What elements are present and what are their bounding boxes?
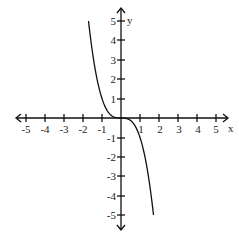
x-tick-label: -2 <box>78 123 87 135</box>
x-tick-label: 3 <box>176 123 182 135</box>
x-axis-label: x <box>228 122 234 134</box>
x-tick-label: -5 <box>21 123 31 135</box>
y-tick-label: 4 <box>111 34 117 46</box>
y-axis <box>117 8 125 230</box>
y-tick-label: 3 <box>111 54 117 66</box>
x-tick-labels: -5 -4 -3 -2 -1 1 2 3 4 5 <box>21 123 219 135</box>
x-tick-label: -4 <box>40 123 50 135</box>
y-tick-label: -4 <box>107 190 117 202</box>
y-tick-label: -2 <box>107 151 116 163</box>
y-axis-label: y <box>127 14 133 26</box>
x-tick-label: -3 <box>59 123 69 135</box>
x-tick-label: 5 <box>213 123 219 135</box>
y-tick-label: -5 <box>107 209 117 221</box>
y-tick-label: -3 <box>107 170 117 182</box>
cubic-graph: -5 -4 -3 -2 -1 1 2 3 4 5 x 5 4 3 2 1 -1 … <box>0 0 239 236</box>
x-tick-label: 4 <box>195 123 201 135</box>
x-tick-label: 2 <box>157 123 163 135</box>
y-tick-label: 2 <box>111 73 117 85</box>
y-tick-label: -1 <box>107 132 116 144</box>
y-tick-label: 5 <box>111 15 117 27</box>
y-tick-label: 1 <box>111 93 117 105</box>
x-tick-label: -1 <box>97 123 106 135</box>
